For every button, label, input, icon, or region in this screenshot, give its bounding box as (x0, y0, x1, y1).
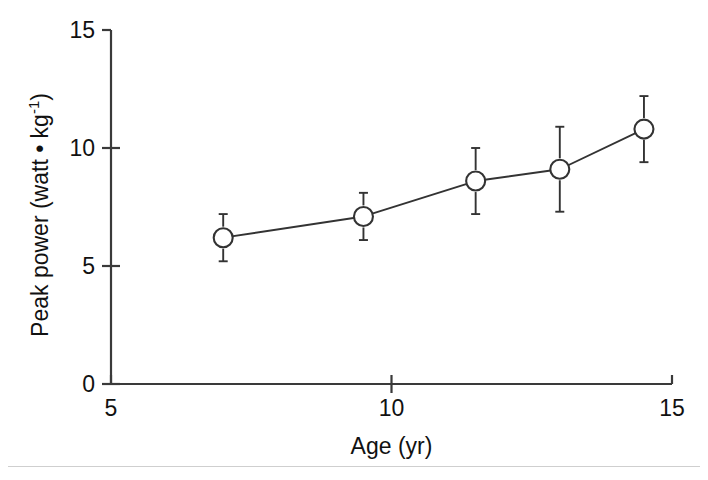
y-tick-label-15: 15 (69, 17, 95, 43)
y-tick-label-0: 0 (82, 371, 95, 397)
y-axis-title-main: Peak power (watt • kg (27, 114, 53, 337)
axis-labels-group: 05101551015Age (yr)Peak power (watt • kg… (25, 17, 685, 459)
marker-circle-1 (214, 228, 233, 247)
x-tick-label-15: 15 (659, 395, 685, 421)
bottom-divider (8, 466, 700, 467)
data-point-1 (214, 214, 233, 261)
data-point-5 (634, 96, 653, 162)
marker-circle-3 (466, 172, 485, 191)
marker-circle-5 (634, 120, 653, 139)
series-polyline (223, 129, 644, 238)
y-axis-title: Peak power (watt • kg-1) (25, 93, 53, 337)
axes-group (102, 30, 672, 393)
x-tick-label-5: 5 (105, 395, 118, 421)
x-axis-title: Age (yr) (351, 433, 433, 459)
y-tick-label-10: 10 (69, 135, 95, 161)
y-axis-title-tail: ) (27, 93, 53, 101)
chart-plot: 05101551015Age (yr)Peak power (watt • kg… (0, 0, 708, 480)
y-tick-label-5: 5 (82, 253, 95, 279)
data-point-3 (466, 148, 485, 214)
data-point-2 (354, 193, 373, 240)
data-series-group (214, 96, 654, 261)
x-tick-label-10: 10 (379, 395, 405, 421)
data-point-4 (550, 127, 569, 212)
marker-circle-2 (354, 207, 373, 226)
y-axis-title-superscript: -1 (25, 101, 42, 114)
figure-container: 05101551015Age (yr)Peak power (watt • kg… (0, 0, 708, 480)
marker-circle-4 (550, 160, 569, 179)
